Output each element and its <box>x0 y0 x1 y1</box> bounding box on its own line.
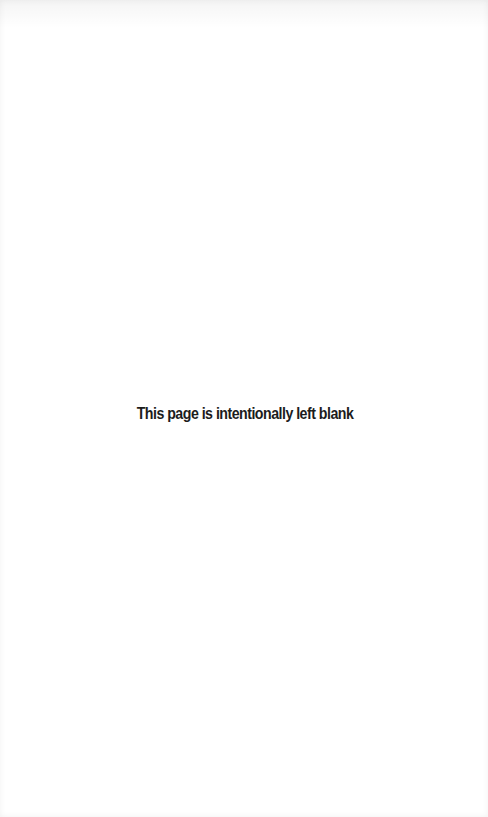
scan-edge-shadow <box>0 0 488 28</box>
blank-page-notice: This page is intentionally left blank <box>34 404 455 423</box>
document-page: This page is intentionally left blank <box>0 0 488 817</box>
